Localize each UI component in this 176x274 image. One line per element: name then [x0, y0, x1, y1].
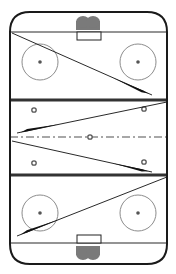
- top-net: [76, 16, 100, 30]
- faceoff-dot: [136, 60, 140, 64]
- bottom-net: [76, 246, 100, 260]
- faceoff-dot: [38, 211, 42, 215]
- hockey-rink-diagram: [0, 0, 176, 274]
- top-crease: [77, 32, 101, 40]
- neutral-dot-top-left: [32, 108, 36, 112]
- neutral-dot-bottom-right: [142, 160, 146, 164]
- faceoff-dot: [38, 60, 42, 64]
- faceoff-dot: [136, 211, 140, 215]
- center-faceoff-dot: [88, 135, 92, 139]
- neutral-dot-bottom-left: [32, 161, 36, 165]
- bottom-crease: [77, 235, 101, 243]
- net-lobe-right: [86, 16, 100, 28]
- net-lobe-right: [86, 248, 100, 260]
